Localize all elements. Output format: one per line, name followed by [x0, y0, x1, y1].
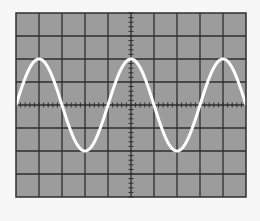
oscilloscope-display: [0, 0, 260, 221]
